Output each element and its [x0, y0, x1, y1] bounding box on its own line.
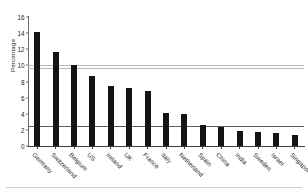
x-tick-slot	[230, 146, 248, 149]
bar	[53, 52, 59, 146]
bar-slot	[194, 17, 212, 146]
bar	[181, 114, 187, 146]
x-label-slot: UK	[120, 150, 138, 190]
x-tick-mark	[294, 146, 295, 149]
bar	[89, 76, 95, 146]
bar	[292, 135, 298, 146]
y-tick-label: 8	[21, 78, 25, 85]
bar-slot	[138, 17, 156, 146]
x-tick-mark	[202, 146, 203, 149]
bar-slot	[28, 17, 46, 146]
x-tick-label: UK	[123, 151, 134, 162]
bar-slot	[249, 17, 267, 146]
y-axis-title: Percentage	[9, 24, 16, 88]
x-tick-label: Spain	[197, 151, 213, 167]
x-tick-slot	[138, 146, 156, 149]
x-tick-slot	[120, 146, 138, 149]
bar	[126, 88, 132, 146]
x-tick-slot	[102, 146, 120, 149]
x-tick-slot	[157, 146, 175, 149]
x-tick-mark	[166, 146, 167, 149]
bar	[71, 65, 77, 146]
x-label-slot: Israel	[267, 150, 285, 190]
x-tick-mark	[55, 146, 56, 149]
bar-slot	[157, 17, 175, 146]
bar	[145, 91, 151, 146]
x-axis-ticks	[28, 146, 304, 149]
y-tick-label: 10	[17, 62, 24, 69]
y-tick-label: 12	[17, 46, 24, 53]
bar-slot	[83, 17, 101, 146]
bar-slot	[102, 17, 120, 146]
y-tick-label: 6	[21, 94, 25, 101]
x-label-slot: Ireland	[102, 150, 120, 190]
y-tick-label: 16	[17, 14, 24, 21]
x-axis-labels: GermanySwitzerlandBelgiumUSIrelandUKFran…	[28, 150, 304, 190]
x-label-slot: US	[83, 150, 101, 190]
bar-slot	[286, 17, 304, 146]
x-label-slot: Italy	[157, 150, 175, 190]
bar	[255, 132, 261, 147]
x-tick-slot	[286, 146, 304, 149]
x-label-slot: France	[138, 150, 156, 190]
x-tick-mark	[258, 146, 259, 149]
x-tick-slot	[65, 146, 83, 149]
x-label-slot: China	[212, 150, 230, 190]
x-label-slot: Switzerland	[46, 150, 64, 190]
y-tick-label: 0	[21, 143, 25, 150]
x-label-slot: Spain	[194, 150, 212, 190]
x-label-slot: Singapore	[286, 150, 304, 190]
x-tick-mark	[221, 146, 222, 149]
x-tick-mark	[74, 146, 75, 149]
x-label-slot: India	[230, 150, 248, 190]
x-tick-slot	[194, 146, 212, 149]
bar-slot	[65, 17, 83, 146]
x-tick-mark	[110, 146, 111, 149]
x-tick-label: India	[234, 151, 249, 166]
x-tick-slot	[175, 146, 193, 149]
y-tick-label: 4	[21, 110, 25, 117]
x-tick-slot	[46, 146, 64, 149]
x-label-slot: Germany	[28, 150, 46, 190]
bar-slot	[175, 17, 193, 146]
x-tick-label: Singapore	[289, 151, 308, 177]
x-tick-slot	[28, 146, 46, 149]
x-tick-slot	[267, 146, 285, 149]
bar	[237, 131, 243, 146]
y-tick-label: 14	[17, 30, 24, 37]
x-tick-slot	[83, 146, 101, 149]
x-tick-mark	[37, 146, 38, 149]
bar-chart: Percentage 1614121086420 GermanySwitzerl…	[0, 0, 308, 192]
x-tick-slot	[212, 146, 230, 149]
x-tick-label: Italy	[160, 151, 173, 164]
bar	[218, 127, 224, 146]
bottom-divider	[6, 187, 302, 188]
bar-slot	[212, 17, 230, 146]
x-label-slot: Netherland	[175, 150, 193, 190]
bar	[108, 86, 114, 146]
bar	[200, 125, 206, 146]
bar	[273, 133, 279, 146]
x-tick-mark	[129, 146, 130, 149]
x-label-slot: Sweden	[249, 150, 267, 190]
bar-slot	[230, 17, 248, 146]
bar	[34, 32, 40, 146]
x-tick-label: Israel	[271, 151, 287, 167]
x-tick-label: US	[86, 151, 97, 162]
plot-area: 1614121086420	[28, 17, 304, 146]
y-tick-label: 2	[21, 126, 25, 133]
x-label-slot: Belgium	[65, 150, 83, 190]
x-tick-mark	[184, 146, 185, 149]
bar-slot	[46, 17, 64, 146]
x-tick-mark	[147, 146, 148, 149]
x-tick-mark	[276, 146, 277, 149]
bar-slot	[120, 17, 138, 146]
bar-slot	[267, 17, 285, 146]
x-tick-mark	[239, 146, 240, 149]
x-tick-slot	[249, 146, 267, 149]
x-tick-mark	[92, 146, 93, 149]
bar	[163, 113, 169, 146]
bar-series	[28, 17, 304, 146]
